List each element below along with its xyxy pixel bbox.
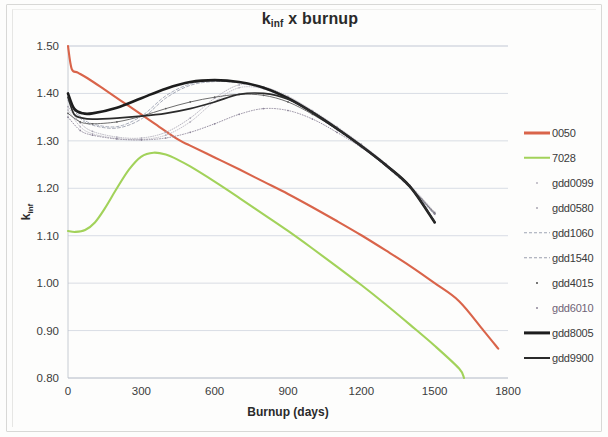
x-tick-label: 1800 xyxy=(495,385,521,397)
legend-item-gdd8005[interactable]: gdd8005 xyxy=(524,320,604,345)
y-tick-label: 0.90 xyxy=(37,325,59,337)
legend-item-gdd4015[interactable]: gdd4015 xyxy=(524,270,604,295)
series-marker-gdd6010 xyxy=(434,213,436,215)
series-line-gdd9900 xyxy=(68,93,435,221)
legend-dot-icon xyxy=(536,282,538,284)
legend-item-gdd6010[interactable]: gdd6010 xyxy=(524,295,604,320)
series-marker-gdd0580 xyxy=(238,84,240,86)
legend-swatch-gdd4015 xyxy=(524,277,550,289)
series-marker-gdd4015 xyxy=(92,123,94,125)
series-line-gdd1060 xyxy=(68,81,435,215)
series-marker-gdd0099 xyxy=(67,109,69,111)
y-axis-title-main: kinf xyxy=(19,203,35,220)
legend-dot-icon xyxy=(536,207,538,209)
y-tick-label: 1.40 xyxy=(37,87,59,99)
chart-screenshot: kinf x burnup 0.800.901.001.101.201.301.… xyxy=(0,0,608,437)
series-marker-gdd0580 xyxy=(92,131,94,133)
y-tick-label: 1.50 xyxy=(37,40,59,52)
legend-line-icon xyxy=(524,331,550,334)
legend-label-7028: 7028 xyxy=(552,152,576,164)
legend-swatch-gdd1540 xyxy=(524,252,550,264)
x-axis-title: Burnup (days) xyxy=(247,405,328,419)
series-marker-gdd0099 xyxy=(165,134,167,136)
legend-label-gdd1540: gdd1540 xyxy=(552,252,593,264)
legend-swatch-gdd0099 xyxy=(524,177,550,189)
series-marker-gdd6010 xyxy=(336,131,338,133)
series-marker-gdd0580 xyxy=(165,131,167,133)
legend-label-gdd8005: gdd8005 xyxy=(552,327,593,339)
series-marker-gdd6010 xyxy=(79,130,81,132)
legend-line-icon xyxy=(524,357,550,359)
legend-swatch-gdd1060 xyxy=(524,227,550,239)
legend-line-icon xyxy=(524,131,550,134)
series-marker-gdd6010 xyxy=(116,138,118,140)
legend-swatch-gdd0580 xyxy=(524,202,550,214)
x-tick-label: 0 xyxy=(65,385,71,397)
y-axis-title: kinf xyxy=(19,203,35,220)
series-marker-gdd4015 xyxy=(214,96,216,98)
series-line-gdd4015 xyxy=(68,94,435,213)
x-tick-label: 1200 xyxy=(349,385,375,397)
series-marker-gdd6010 xyxy=(92,134,94,136)
legend-item-7028[interactable]: 7028 xyxy=(524,145,604,170)
legend-dot-icon xyxy=(536,182,538,184)
series-marker-gdd6010 xyxy=(312,118,314,120)
series-marker-gdd0580 xyxy=(67,106,69,108)
y-tick-label: 1.00 xyxy=(37,277,59,289)
series-marker-gdd6010 xyxy=(140,139,142,141)
series-marker-gdd4015 xyxy=(165,108,167,110)
series-marker-gdd4015 xyxy=(116,121,118,123)
y-tick-label: 1.30 xyxy=(37,135,59,147)
legend-dot-icon xyxy=(536,307,538,309)
legend-label-gdd9900: gdd9900 xyxy=(552,352,593,364)
legend-swatch-gdd6010 xyxy=(524,302,550,314)
legend-item-gdd9900[interactable]: gdd9900 xyxy=(524,345,604,370)
series-marker-gdd6010 xyxy=(287,110,289,112)
series-marker-gdd0099 xyxy=(238,87,240,89)
series-marker-gdd0580 xyxy=(189,117,191,119)
legend-label-gdd0580: gdd0580 xyxy=(552,202,593,214)
plot-area: 0.800.901.001.101.201.301.401.5003006009… xyxy=(0,0,608,437)
series-line-0050 xyxy=(68,46,498,349)
legend-label-0050: 0050 xyxy=(552,127,576,139)
series-marker-gdd0580 xyxy=(116,136,118,138)
legend-line-icon xyxy=(524,257,550,259)
x-tick-label: 600 xyxy=(205,385,224,397)
series-marker-gdd0099 xyxy=(189,121,191,123)
series-marker-gdd6010 xyxy=(165,137,167,139)
x-tick-label: 900 xyxy=(278,385,297,397)
chart-legend: 00507028gdd0099gdd0580gdd1060gdd1540gdd4… xyxy=(524,120,604,370)
x-tick-label: 300 xyxy=(132,385,151,397)
series-marker-gdd4015 xyxy=(189,101,191,103)
legend-line-icon xyxy=(524,232,550,234)
legend-item-gdd1060[interactable]: gdd1060 xyxy=(524,220,604,245)
legend-label-gdd6010: gdd6010 xyxy=(552,302,593,314)
legend-item-gdd0099[interactable]: gdd0099 xyxy=(524,170,604,195)
legend-label-gdd1060: gdd1060 xyxy=(552,227,593,239)
y-tick-label: 1.10 xyxy=(37,230,59,242)
series-marker-gdd6010 xyxy=(189,131,191,133)
legend-swatch-0050 xyxy=(524,127,550,139)
series-marker-gdd6010 xyxy=(263,108,265,110)
series-line-7028 xyxy=(68,153,464,378)
legend-swatch-gdd9900 xyxy=(524,352,550,364)
legend-swatch-gdd8005 xyxy=(524,327,550,339)
series-marker-gdd6010 xyxy=(67,116,69,118)
y-tick-label: 1.20 xyxy=(37,182,59,194)
legend-item-gdd0580[interactable]: gdd0580 xyxy=(524,195,604,220)
legend-line-icon xyxy=(524,156,550,159)
legend-item-gdd1540[interactable]: gdd1540 xyxy=(524,245,604,270)
legend-swatch-7028 xyxy=(524,152,550,164)
series-marker-gdd6010 xyxy=(214,123,216,125)
series-marker-gdd4015 xyxy=(67,113,69,115)
legend-item-0050[interactable]: 0050 xyxy=(524,120,604,145)
series-marker-gdd0580 xyxy=(140,137,142,139)
legend-label-gdd0099: gdd0099 xyxy=(552,177,593,189)
series-line-gdd0580 xyxy=(68,84,435,213)
series-marker-gdd4015 xyxy=(287,101,289,103)
legend-label-gdd4015: gdd4015 xyxy=(552,277,593,289)
series-marker-gdd4015 xyxy=(79,121,81,123)
y-tick-label: 0.80 xyxy=(37,372,59,384)
series-marker-gdd4015 xyxy=(263,94,265,96)
series-marker-gdd0099 xyxy=(79,126,81,128)
